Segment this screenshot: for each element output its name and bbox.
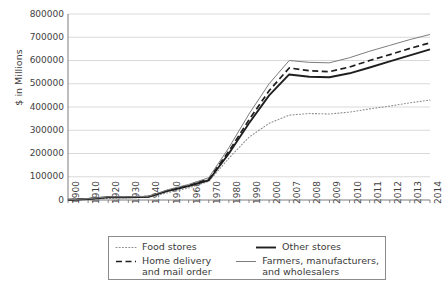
legend-label-food-stores: Food stores (142, 241, 197, 252)
legend-item-food-stores[interactable]: Food stores (115, 241, 255, 253)
legend-row-1: Food storesOther stores (115, 241, 379, 253)
series-line-3 (68, 34, 430, 199)
legend-row-2: Home deliveryand mail orderFarmers, manu… (115, 255, 379, 277)
legend-label-farmers-manufacturers-wholesalers: Farmers, manufacturers,and wholesalers (262, 255, 379, 277)
legend-item-farmers-manufacturers-wholesalers[interactable]: Farmers, manufacturers,and wholesalers (235, 255, 379, 277)
legend-label-other-stores: Other stores (282, 241, 341, 252)
legend-label-line2-home-delivery-mail-order: and mail order (142, 266, 212, 277)
legend-swatch-farmers-manufacturers-wholesalers (235, 256, 257, 267)
legend-item-other-stores[interactable]: Other stores (255, 241, 341, 253)
legend-swatch-food-stores (115, 242, 137, 253)
legend-item-home-delivery-mail-order[interactable]: Home deliveryand mail order (115, 255, 235, 277)
series-line-0 (68, 100, 430, 200)
legend-swatch-other-stores (255, 242, 277, 253)
legend-label-line2-farmers-manufacturers-wholesalers: and wholesalers (262, 266, 379, 277)
series-line-1 (68, 49, 430, 199)
legend-swatch-home-delivery-mail-order (115, 256, 137, 267)
chart-legend: Food storesOther storesHome deliveryand … (108, 236, 386, 280)
legend-label-home-delivery-mail-order: Home deliveryand mail order (142, 255, 212, 277)
